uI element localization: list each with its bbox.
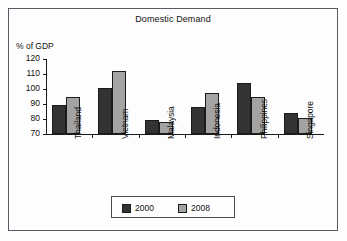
legend-swatch-2008 xyxy=(178,204,187,213)
category-label-vietnam: Vietnam xyxy=(120,109,130,139)
bar-malaysia-2000 xyxy=(145,120,159,134)
y-axis-tick-label: 120 xyxy=(10,53,40,63)
bar-vietnam-2000 xyxy=(98,88,112,134)
bar-indonesia-2000 xyxy=(191,107,205,134)
bar-group xyxy=(278,59,324,134)
y-axis-tick-label: 90 xyxy=(10,98,40,108)
legend-entry-2000: 2000 xyxy=(122,202,154,214)
x-axis-separator xyxy=(231,134,232,138)
legend-label-2000: 2000 xyxy=(135,204,154,213)
y-axis-tick-label: 110 xyxy=(10,68,40,78)
bar-singapore-2000 xyxy=(284,113,298,134)
bar-group xyxy=(139,59,185,134)
bar-thailand-2000 xyxy=(52,105,66,134)
y-axis-tick: 70 xyxy=(43,134,47,135)
category-label-thailand: Thailand xyxy=(73,107,83,139)
bar-group xyxy=(231,59,277,134)
bar-group xyxy=(46,59,92,134)
category-label-singapore: Singapore xyxy=(305,101,315,139)
y-axis-tick-label: 100 xyxy=(10,83,40,93)
category-label-philippines: Philippines xyxy=(259,99,269,139)
y-axis-tick-label: 80 xyxy=(10,113,40,123)
legend-swatch-2000 xyxy=(122,204,131,213)
x-axis-separator xyxy=(278,134,279,138)
chart-figure: Domestic Demand % of GDP 120110100908070… xyxy=(0,0,347,241)
y-axis-tick-label: 70 xyxy=(10,128,40,138)
legend-label-2008: 2008 xyxy=(191,204,210,213)
legend-entry-2008: 2008 xyxy=(178,202,210,214)
x-axis-separator xyxy=(185,134,186,138)
chart-title: Domestic Demand xyxy=(8,14,338,24)
category-label-malaysia: Malaysia xyxy=(166,106,176,139)
bar-group xyxy=(185,59,231,134)
x-axis-separator xyxy=(92,134,93,138)
y-axis-unit-label: % of GDP xyxy=(16,41,54,51)
plot-area: 120110100908070 ThailandVietnamMalaysiaI… xyxy=(46,59,324,134)
bar-philippines-2000 xyxy=(237,83,251,134)
category-label-indonesia: Indonesia xyxy=(212,103,222,139)
bar-group xyxy=(92,59,138,134)
x-axis-separator xyxy=(139,134,140,138)
chart-legend: 2000 2008 xyxy=(111,196,235,218)
